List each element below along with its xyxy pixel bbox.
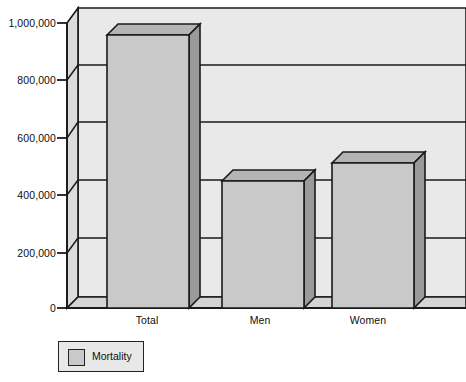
legend-label-mortality: Mortality [92,350,132,362]
left-wall [67,8,78,308]
bar-men-front [222,181,304,308]
y-tick-label-0: 0 [50,302,56,314]
y-tick-label-600000: 600,000 [17,132,56,144]
bar-women-side [414,152,425,308]
bar-total-side [189,24,200,308]
bar-men[interactable] [222,170,315,308]
y-tick-label-200000: 200,000 [17,247,56,259]
y-tick-label-400000: 400,000 [17,189,56,201]
bar-total[interactable] [107,24,200,308]
bar-total-front [107,35,189,308]
x-category-label-men: Men [220,314,300,326]
bar-men-top [222,170,315,181]
bar-women-top [332,152,425,163]
bar-women-front [332,163,414,308]
y-axis-ticks [57,23,67,308]
bar-chart: 1,000,000 800,000 600,000 400,000 200,00… [0,0,466,382]
y-tick-label-800000: 800,000 [17,74,56,86]
y-axis [57,23,67,308]
bar-total-top [107,24,200,35]
y-tick-label-1000000: 1,000,000 [8,17,56,29]
legend-swatch-mortality [68,349,85,366]
bar-men-side [304,170,315,308]
x-category-label-total: Total [107,314,187,326]
x-category-label-women: Women [328,314,408,326]
chart-legend: Mortality [58,341,144,372]
bar-women[interactable] [332,152,425,308]
